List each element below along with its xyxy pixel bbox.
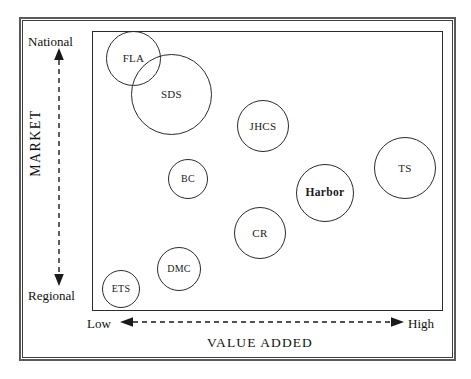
- y-axis-title: MARKET: [28, 103, 44, 183]
- bubble-bc[interactable]: BC: [168, 159, 208, 199]
- bubble-dmc[interactable]: DMC: [157, 247, 201, 291]
- bubble-sds[interactable]: SDS: [131, 54, 212, 135]
- bubble-label: BC: [181, 174, 195, 184]
- bubble-label: TS: [398, 163, 411, 174]
- x-axis-high-label: High: [408, 316, 434, 332]
- bubble-label: CR: [252, 228, 267, 239]
- y-axis-arrow-icon: [50, 48, 68, 286]
- bubble-label: DMC: [167, 264, 191, 274]
- x-axis-low-label: Low: [87, 316, 111, 332]
- y-axis-low-label: Regional: [28, 288, 75, 304]
- bubble-harbor[interactable]: Harbor: [296, 164, 354, 222]
- plot-area: FLASDSJHCSTSBCHarborCRDMCETS: [92, 31, 443, 311]
- bubble-label: Harbor: [306, 187, 345, 199]
- x-axis-title: VALUE ADDED: [120, 335, 400, 351]
- bubble-label: JHCS: [250, 121, 277, 132]
- bubble-cr[interactable]: CR: [234, 207, 286, 259]
- bubble-label: FLA: [123, 53, 145, 64]
- bubble-jhcs[interactable]: JHCS: [237, 100, 289, 152]
- chart-canvas: National Regional MARKET Low High VALUE …: [0, 0, 471, 379]
- bubble-label: SDS: [161, 89, 182, 100]
- bubble-ts[interactable]: TS: [374, 137, 436, 199]
- bubble-label: ETS: [112, 284, 131, 294]
- bubble-ets[interactable]: ETS: [102, 270, 140, 308]
- x-axis-arrow-icon: [120, 313, 404, 331]
